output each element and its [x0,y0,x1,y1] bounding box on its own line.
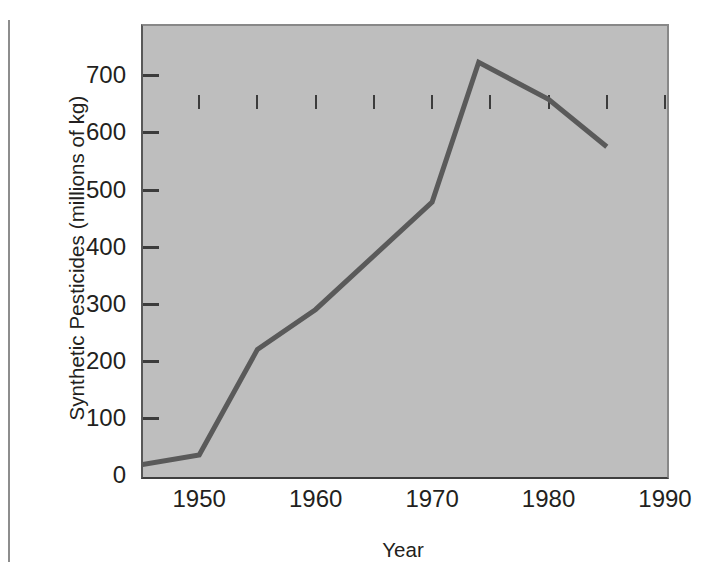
y-tick-label-text: 0 [44,463,126,487]
y-tick-label-text: 500 [44,178,126,202]
y-tick-label-text: 100 [44,406,126,430]
y-tick-label-text: 400 [44,235,126,259]
y-tick-label-text: 300 [44,292,126,316]
y-tick-label-text: 600 [44,120,126,144]
data-line [141,62,607,464]
figure-container: Synthetic Pesticides (millions of kg) 01… [0,0,723,586]
x-tick-label: 1950 [154,487,244,511]
y-tick-label-text: 700 [44,63,126,87]
x-axis-title: Year [141,538,665,562]
x-tick-label: 1960 [271,487,361,511]
x-tick-label: 1970 [387,487,477,511]
page-left-rule [8,20,10,562]
x-tick-label: 1990 [620,487,710,511]
y-tick-label-text: 200 [44,349,126,373]
x-tick-label: 1980 [504,487,594,511]
line-chart-plot [141,24,665,475]
